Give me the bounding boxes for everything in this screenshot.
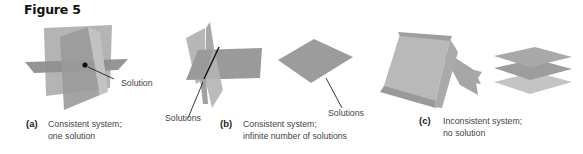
panel-b-single-plane: [278, 39, 353, 108]
solution-point-icon: [82, 62, 87, 67]
solution-label: Solution: [121, 77, 153, 88]
panel-c-caption-line2: no solution: [443, 127, 485, 139]
panel-b-caption-line1: Consistent system;: [243, 118, 317, 130]
panel-c-caption-line1: Inconsistent system;: [443, 115, 522, 127]
panel-a-caption-line2: one solution: [48, 130, 95, 142]
panel-a-planes: [25, 25, 128, 110]
panel-a-letter: (a): [26, 118, 38, 129]
panel-c-letter: (c): [419, 115, 431, 126]
panel-c-tent-planes: [380, 32, 482, 108]
solutions-plane-label: Solutions: [328, 107, 364, 118]
panel-c-parallel-planes: [494, 47, 572, 94]
panel-b-planes-line: [186, 22, 262, 118]
panel-a-caption-line1: Consistent system;: [48, 118, 122, 130]
solutions-line-label: Solutions: [165, 112, 201, 123]
panel-b-letter: (b): [220, 118, 232, 129]
panel-b-caption-line2: infinite number of solutions: [243, 130, 347, 142]
